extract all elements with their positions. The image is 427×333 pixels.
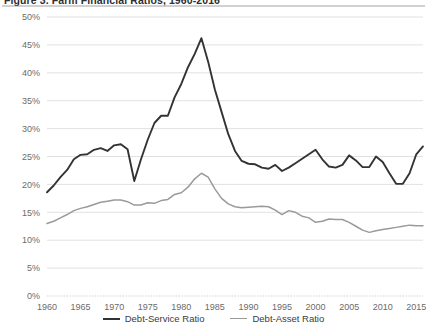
x-tick-label: 2000 [306, 302, 326, 310]
x-tick-label: 2005 [339, 302, 359, 310]
y-tick-label: 30% [22, 124, 40, 134]
line-chart-svg: 0%5%10%15%20%25%30%35%40%45%50%196019651… [0, 0, 427, 310]
chart-legend: Debt-Service Ratio Debt-Asset Ratio [0, 313, 427, 324]
y-tick-label: 40% [22, 68, 40, 78]
figure-container: Figure 3. Farm Financial Ratios, 1960-20… [0, 0, 427, 333]
x-tick-label: 2010 [373, 302, 393, 310]
y-tick-label: 45% [22, 40, 40, 50]
x-tick-label: 1975 [138, 302, 158, 310]
x-tick-label: 1995 [272, 302, 292, 310]
y-tick-label: 0% [27, 291, 40, 301]
x-tick-label: 1965 [71, 302, 91, 310]
legend-label-debt-asset: Debt-Asset Ratio [252, 313, 324, 324]
x-tick-label: 1990 [238, 302, 258, 310]
y-tick-label: 35% [22, 96, 40, 106]
x-tick-label: 1980 [171, 302, 191, 310]
x-tick-label: 1970 [104, 302, 124, 310]
legend-item-debt-service: Debt-Service Ratio [103, 313, 205, 324]
series-line-debt-asset-ratio [47, 173, 423, 232]
x-tick-label: 1960 [37, 302, 57, 310]
y-tick-label: 50% [22, 12, 40, 22]
y-tick-label: 5% [27, 263, 40, 273]
plot-area: 0%5%10%15%20%25%30%35%40%45%50%196019651… [0, 0, 427, 310]
y-tick-label: 25% [22, 152, 40, 162]
x-tick-label: 1985 [205, 302, 225, 310]
legend-item-debt-asset: Debt-Asset Ratio [230, 313, 324, 324]
legend-swatch-debt-service [103, 318, 120, 320]
y-tick-label: 20% [22, 180, 40, 190]
x-tick-label: 2015 [406, 302, 426, 310]
legend-label-debt-service: Debt-Service Ratio [125, 313, 205, 324]
legend-swatch-debt-asset [230, 318, 247, 319]
series-line-debt-service-ratio [47, 38, 423, 192]
y-tick-label: 15% [22, 208, 40, 218]
y-tick-label: 10% [22, 235, 40, 245]
